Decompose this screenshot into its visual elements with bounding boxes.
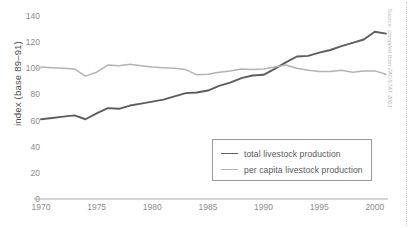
x-tick-1975: 1975 xyxy=(77,203,117,212)
legend-label-per-capita: per capita livestock production xyxy=(244,165,363,175)
x-tick-1990: 1990 xyxy=(244,203,284,212)
plot-area xyxy=(0,0,413,228)
chart-legend: total livestock production per capita li… xyxy=(212,139,372,181)
series-line-per-capita xyxy=(41,64,386,76)
chart-figure: index (base 89–91) 020406080100120140 to… xyxy=(0,0,413,228)
legend-item-per-capita: per capita livestock production xyxy=(221,163,363,176)
x-tick-1995: 1995 xyxy=(299,203,339,212)
right-edge-rule xyxy=(406,2,407,226)
x-tick-1985: 1985 xyxy=(188,203,228,212)
x-tick-1980: 1980 xyxy=(132,203,172,212)
source-note: Source: compiled from FAOSTAT 2001 xyxy=(387,0,393,118)
legend-swatch-per-capita xyxy=(221,169,238,170)
series-layer xyxy=(41,32,386,120)
x-tick-2000: 2000 xyxy=(355,203,395,212)
legend-item-total: total livestock production xyxy=(221,147,341,160)
legend-swatch-total xyxy=(221,153,238,154)
legend-label-total: total livestock production xyxy=(244,149,341,159)
series-line-total xyxy=(41,32,386,120)
x-tick-1970: 1970 xyxy=(21,203,61,212)
